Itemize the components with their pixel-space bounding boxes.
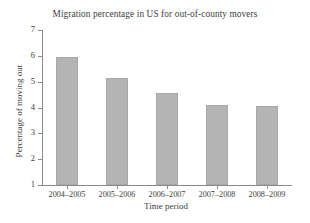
x-tick-label: 2008–2009 (235, 190, 299, 199)
y-axis-line (42, 30, 43, 185)
y-tick-mark (38, 133, 42, 134)
y-tick-label: 4 (18, 103, 35, 112)
y-tick-label: 7 (18, 25, 35, 34)
y-tick-mark (38, 108, 42, 109)
y-tick-mark (38, 30, 42, 31)
bar[interactable] (106, 78, 128, 185)
bar[interactable] (156, 93, 178, 185)
bar-chart-figure: Migration percentage in US for out-of-co… (0, 0, 310, 223)
y-tick-label: 6 (18, 51, 35, 60)
bar[interactable] (256, 106, 278, 185)
bar[interactable] (206, 105, 228, 185)
x-tick-mark (117, 186, 118, 189)
x-axis-label: Time period (38, 201, 294, 211)
y-tick-mark (38, 56, 42, 57)
x-tick-mark (217, 186, 218, 189)
y-tick-label: 5 (18, 77, 35, 86)
y-tick-label: 1 (18, 180, 35, 189)
y-tick-mark (38, 185, 42, 186)
y-tick-label: 3 (18, 128, 35, 137)
bar[interactable] (56, 57, 78, 185)
y-tick-mark (38, 82, 42, 83)
y-tick-mark (38, 159, 42, 160)
x-tick-mark (67, 186, 68, 189)
plot-area: 1 2 3 4 5 6 7 2004–2005 2005–2006 2006–2… (42, 30, 292, 185)
y-tick-label: 2 (18, 154, 35, 163)
x-tick-mark (267, 186, 268, 189)
x-tick-mark (167, 186, 168, 189)
chart-title: Migration percentage in US for out-of-co… (0, 9, 310, 19)
